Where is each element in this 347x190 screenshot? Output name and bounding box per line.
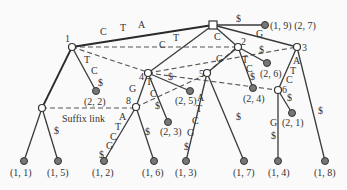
leaf-label: (1, 8) <box>314 167 336 179</box>
edge-label: C <box>192 115 199 126</box>
edge-label: $ <box>155 100 160 111</box>
internal-node-6 <box>275 87 282 94</box>
edge-label: T <box>84 54 90 65</box>
leaf-label: (1, 3) <box>175 167 197 179</box>
edge-label: $ <box>250 71 255 82</box>
edge-label: C <box>286 74 293 85</box>
leaf-label: (1, 5) <box>47 167 69 179</box>
node-label: 1 <box>65 33 70 44</box>
edge-label: $ <box>287 92 292 103</box>
internal-node-unlabeled <box>39 105 46 112</box>
edge-label: G <box>270 117 277 128</box>
leaf-label: (1, 7) <box>233 167 255 179</box>
leaf-label: (2, 2) <box>84 96 106 108</box>
leaf-label: (2, 5) <box>175 95 197 107</box>
leaf-node <box>165 119 172 126</box>
edge-label: G <box>256 28 263 39</box>
edge-label: G <box>106 140 113 151</box>
leaf-node <box>21 158 28 165</box>
leaf-node <box>55 158 62 165</box>
edge-label: $ <box>318 105 323 116</box>
leaf-label: (1, 9) (2, 7) <box>270 20 316 32</box>
leaf-node <box>241 158 248 165</box>
edge-label: $ <box>168 71 173 82</box>
leaf-node <box>187 88 194 95</box>
internal-node-8 <box>133 104 140 111</box>
root-node <box>209 21 217 29</box>
suffix-link-annotation: Suffix link <box>62 113 105 124</box>
leaf-node <box>151 158 158 165</box>
suffix-tree-diagram: C T A $ C T C G T C $ $ G T C $ G $ T C … <box>0 0 347 190</box>
edge-label: G <box>187 127 194 138</box>
leaf-node <box>289 110 296 117</box>
node-label: 5 <box>199 68 204 79</box>
leaf-label: (1, 6) <box>142 167 164 179</box>
edge-label: T <box>173 32 179 43</box>
leaf-node <box>93 88 100 95</box>
edge-label: $ <box>259 44 264 55</box>
internal-node-3 <box>294 44 301 51</box>
node-label: 3 <box>302 42 307 53</box>
leaf-label: (2, 4) <box>243 93 265 105</box>
leaf-node <box>322 158 329 165</box>
leaf-node <box>101 158 108 165</box>
edge-label: A <box>197 92 205 103</box>
edge-label: T <box>146 76 152 87</box>
leaf-node <box>250 85 257 92</box>
edge-label: $ <box>271 130 276 141</box>
edge-label: C <box>159 39 166 50</box>
leaf-node <box>183 158 190 165</box>
leaf-label: (2, 6) <box>260 68 282 80</box>
edge-label: C <box>150 88 157 99</box>
leaf-label: (1, 1) <box>10 167 32 179</box>
node-label: 6 <box>282 84 287 95</box>
edge-label: C <box>100 26 107 37</box>
edge-label: T <box>120 22 126 33</box>
edge-label: $ <box>236 13 241 24</box>
edge-label: $ <box>54 125 59 136</box>
leaf-node <box>262 22 269 29</box>
internal-node-5 <box>204 70 211 77</box>
edge-label: $ <box>98 77 103 88</box>
internal-node-4 <box>145 70 152 77</box>
internal-node-1 <box>69 44 76 51</box>
leaf-label: (1, 2) <box>92 167 114 179</box>
edge-label: T <box>196 103 202 114</box>
edge-label: G <box>129 83 136 94</box>
leaf-label: (2, 3) <box>160 126 182 138</box>
leaf-label: (1, 4) <box>268 167 290 179</box>
edge-label: C <box>214 31 221 42</box>
edge-label: $ <box>236 111 241 122</box>
node-label: 4 <box>139 71 144 82</box>
leaf-label: (2, 1) <box>282 117 304 129</box>
edge-label: $ <box>145 126 150 137</box>
node-label: 2 <box>241 36 246 47</box>
edge-label: G <box>216 53 223 64</box>
leaf-node <box>264 60 271 67</box>
edge-label: $ <box>184 141 189 152</box>
edge-label: C <box>91 65 98 76</box>
node-label: 8 <box>126 95 131 106</box>
edge-label: A <box>138 19 146 30</box>
leaf-node <box>275 158 282 165</box>
